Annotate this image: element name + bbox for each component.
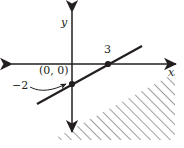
minus-two-callout-arrow <box>30 84 66 90</box>
three-label: 3 <box>104 44 111 55</box>
minus-two-label: −2 <box>12 80 28 91</box>
graph-figure: y x 3 (0, 0) −2 <box>0 0 184 148</box>
graph-canvas <box>0 0 184 148</box>
origin-label: (0, 0) <box>39 65 69 76</box>
origin-point <box>69 81 75 87</box>
y-axis-label: y <box>61 17 67 28</box>
x-intercept-point <box>105 61 111 67</box>
x-axis-label: x <box>168 67 174 78</box>
